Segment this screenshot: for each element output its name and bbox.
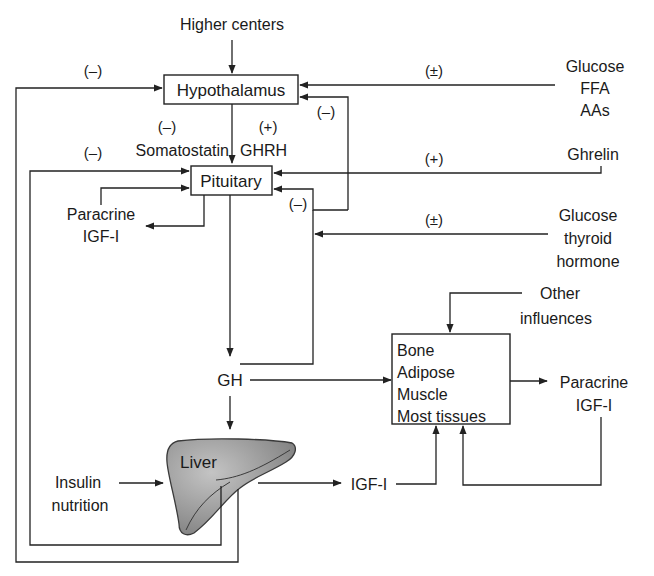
liver-label: Liver bbox=[180, 453, 217, 472]
paracrine-right-to-tissues-arrow bbox=[463, 417, 601, 485]
ghrelin-label: Ghrelin bbox=[567, 146, 619, 163]
glucose-ffa-sign: (±) bbox=[425, 62, 443, 79]
somatostatin-sign: (–) bbox=[158, 118, 176, 135]
ghrh-label: GHRH bbox=[240, 142, 287, 159]
gh-label: GH bbox=[217, 371, 243, 390]
ghrelin-to-pituitary-arrow bbox=[274, 166, 601, 173]
gh-pituitary-sign: (–) bbox=[289, 195, 307, 212]
aas-label: AAs bbox=[580, 102, 609, 119]
igf1-hypothalamus-sign: (–) bbox=[84, 62, 102, 79]
gh-regulation-diagram: Higher centers Hypothalamus (–) (+) Soma… bbox=[0, 0, 654, 576]
higher-centers-label: Higher centers bbox=[180, 16, 284, 33]
other-influences-arrow bbox=[450, 293, 522, 332]
ghrelin-sign: (+) bbox=[425, 150, 444, 167]
igf1-to-tissues-arrow bbox=[396, 426, 436, 484]
glucose-thyroid-sign: (±) bbox=[425, 211, 443, 228]
glucose-label: Glucose bbox=[566, 58, 625, 75]
gh-hypothalamus-sign: (–) bbox=[317, 103, 335, 120]
tissue-adipose: Adipose bbox=[397, 364, 455, 381]
igf1-left-label: IGF-I bbox=[83, 228, 119, 245]
igf1-label: IGF-I bbox=[351, 476, 387, 493]
glucose2-label: Glucose bbox=[559, 207, 618, 224]
igf1-pituitary-sign: (–) bbox=[84, 144, 102, 161]
pituitary-to-paracrine-left-arrow bbox=[146, 195, 204, 226]
ghrh-sign: (+) bbox=[259, 118, 278, 135]
ffa-label: FFA bbox=[580, 80, 610, 97]
insulin-label: Insulin bbox=[55, 474, 101, 491]
paracrine-right-label: Paracrine bbox=[560, 374, 629, 391]
influences-label: influences bbox=[520, 310, 592, 327]
paracrine-left-label: Paracrine bbox=[67, 206, 136, 223]
nutrition-label: nutrition bbox=[52, 497, 109, 514]
tissue-most: Most tissues bbox=[397, 408, 486, 425]
other-label: Other bbox=[540, 285, 581, 302]
gh-feedback-line bbox=[240, 210, 313, 364]
gh-to-pituitary-arrow bbox=[274, 189, 348, 210]
hormone-label: hormone bbox=[556, 253, 619, 270]
tissue-bone: Bone bbox=[397, 342, 434, 359]
pituitary-label: Pituitary bbox=[200, 172, 262, 191]
paracrine-left-to-pituitary-arrow bbox=[101, 188, 189, 205]
hypothalamus-label: Hypothalamus bbox=[177, 81, 286, 100]
somatostatin-label: Somatostatin bbox=[136, 142, 229, 159]
tissue-muscle: Muscle bbox=[397, 386, 448, 403]
igf1-right-label: IGF-I bbox=[576, 397, 612, 414]
thyroid-label: thyroid bbox=[564, 230, 612, 247]
